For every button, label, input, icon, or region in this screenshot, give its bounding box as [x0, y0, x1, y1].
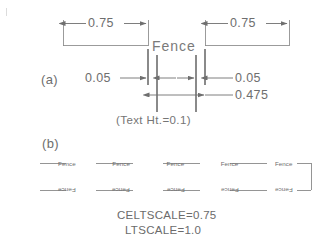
panel-b-upper-fence-label-4: Fence: [221, 160, 239, 167]
panel-b-lower-fence-label-3: Fence: [167, 187, 185, 194]
panel-b-lower-fence-label-2: Fence: [112, 187, 130, 194]
dimension-dash-right-value: 0.75: [230, 16, 256, 30]
panel-b-lower-fence-label-1: Fence: [58, 187, 76, 194]
panel-b-upper-fence-label-5: Fence: [275, 160, 293, 167]
panel-b-lower-fence-label-4: Fence: [221, 187, 239, 194]
dimension-gap-left-value: 0.05: [85, 71, 111, 85]
dimension-text-width-value: 0.475: [235, 88, 268, 102]
panel-a-fence-text: Fence: [152, 38, 196, 54]
ltscale-setting: LTSCALE=1.0: [125, 224, 201, 236]
panel-b-upper-fence-label-1: Fence: [58, 160, 76, 167]
panel-b-upper-fence-label-3: Fence: [167, 160, 185, 167]
panel-b-upper-fence-label-2: Fence: [112, 160, 130, 167]
dimension-dash-left-value: 0.75: [88, 16, 114, 30]
panel-a-vertical-tick-lines: [148, 49, 205, 112]
panel-a-text-height-note: (Text Ht.=0.1): [116, 114, 191, 126]
panel-b-lower-fence-label-5: Fence: [275, 187, 293, 194]
panel-a-label: (a): [41, 72, 58, 87]
panel-b-label: (b): [42, 136, 59, 151]
celtscale-setting: CELTSCALE=0.75: [117, 209, 217, 221]
dimension-gap-right-value: 0.05: [235, 71, 261, 85]
drawing-canvas: (a) 0.75 0.75 Fence 0.05 0.05 0.475 (Tex…: [0, 0, 328, 241]
